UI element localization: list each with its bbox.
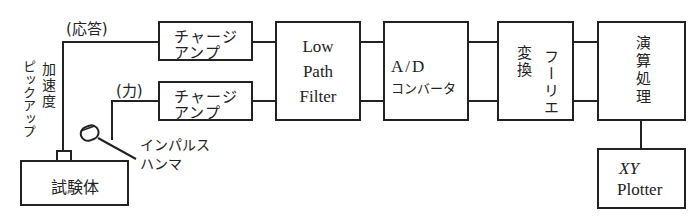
response-line-vertical [62, 41, 64, 152]
force-line-horizontal [111, 100, 159, 102]
lpf-to-adc-line-1 [359, 41, 384, 43]
ad-converter-block: A/D コンバータ [383, 21, 469, 121]
charge-amp-1-block: チャージ アンプ [158, 21, 253, 61]
amp2-to-lpf-line [251, 100, 276, 102]
adc-to-fourier-line-2 [467, 100, 498, 102]
charge-amp-2-block: チャージ アンプ [158, 81, 253, 121]
lpf-label-line2: Path [277, 59, 359, 84]
charge-amp-1-label-line2: アンプ [174, 41, 221, 62]
fourier-label-col1: 変換 [513, 45, 534, 79]
accel-pickup-label-2: ピックアップ [19, 60, 38, 138]
response-label: (応答) [66, 17, 108, 38]
plotter-label-line2: Plotter [617, 177, 662, 202]
adc-to-fourier-line-1 [467, 41, 498, 43]
force-label: (力) [116, 79, 143, 100]
low-path-filter-block: Low Path Filter [275, 21, 361, 121]
impulse-hammer-icon [78, 124, 140, 164]
lpf-label-line1: Low [277, 34, 359, 59]
xy-plotter-block: XY Plotter [597, 148, 686, 209]
fourier-to-processing-line-2 [572, 100, 598, 102]
fourier-transform-block: 変換 フーリエ [497, 21, 574, 121]
fourier-label-col2: フーリエ [540, 49, 561, 117]
lpf-label-line3: Filter [277, 84, 359, 109]
processing-block: 演算処理 [597, 21, 686, 121]
response-line-horizontal [62, 41, 159, 43]
impulse-hammer-label-1: インパルス [140, 134, 210, 154]
charge-amp-2-label-line2: アンプ [174, 101, 221, 122]
processing-label: 演算処理 [632, 35, 653, 107]
impulse-hammer-label-2: ハンマ [140, 153, 182, 173]
adc-label-line2: コンバータ [391, 78, 456, 97]
adc-label-line1: A/D [391, 54, 426, 79]
amp1-to-lpf-line [251, 41, 276, 43]
test-body-label: 試験体 [22, 174, 127, 198]
processing-to-plotter-line [640, 119, 642, 149]
lpf-to-adc-line-2 [359, 100, 384, 102]
accel-pickup-label-1: 加速度 [38, 62, 58, 110]
test-body-block: 試験体 [20, 160, 129, 206]
fourier-to-processing-line-1 [572, 41, 598, 43]
